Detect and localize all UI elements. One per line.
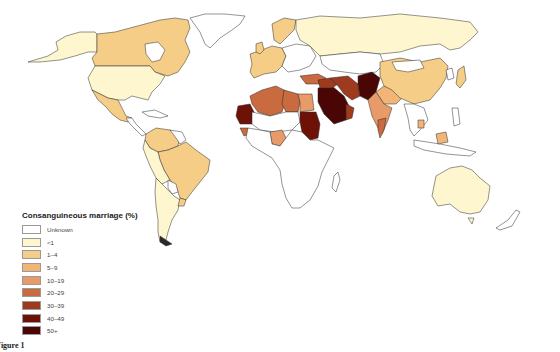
region-central-america — [126, 118, 146, 136]
legend-label: 1–4 — [47, 251, 57, 258]
legend-item: 1–4 — [22, 248, 138, 261]
legend-label: Unknown — [47, 226, 73, 233]
legend-swatch-1-4 — [22, 250, 41, 259]
legend-item: 10–19 — [22, 274, 138, 287]
legend-item: 5–9 — [22, 261, 138, 274]
legend-item: <1 — [22, 236, 138, 249]
legend-item: Unknown — [22, 223, 138, 236]
legend-label: <1 — [47, 239, 54, 246]
legend-item: 20–29 — [22, 286, 138, 299]
region-scandinavia — [272, 18, 296, 44]
region-korea — [446, 68, 454, 80]
figure-caption: Figure 1 — [0, 341, 25, 350]
legend-label: 10–19 — [47, 277, 64, 284]
region-australia — [432, 166, 490, 214]
map-legend: Consanguineous marriage (%) Unknown <1 1… — [22, 211, 138, 337]
legend-label: 30–39 — [47, 302, 64, 309]
region-greenland — [190, 14, 245, 48]
region-cambodia — [418, 120, 424, 128]
region-egypt — [298, 94, 314, 112]
region-alaska — [28, 32, 97, 62]
legend-swatch-20-29 — [22, 288, 41, 297]
legend-swatch-5-9 — [22, 263, 41, 272]
region-japan — [456, 66, 466, 88]
region-libya — [282, 90, 300, 112]
region-philippines — [452, 108, 460, 126]
region-sub-saharan-africa — [246, 128, 334, 208]
region-caribbean — [142, 110, 168, 118]
legend-label: 20–29 — [47, 289, 64, 296]
legend-swatch-unknown — [22, 225, 41, 234]
legend-item: 50+ — [22, 325, 138, 338]
legend-swatch-30-39 — [22, 301, 41, 310]
region-sahel — [252, 112, 300, 132]
region-russia — [296, 14, 478, 56]
region-borneo — [436, 132, 448, 144]
region-yemen-oman — [346, 104, 354, 120]
legend-swatch-50-plus — [22, 326, 41, 335]
legend-label: 5–9 — [47, 264, 57, 271]
region-madagascar — [332, 172, 340, 192]
legend-item: 30–39 — [22, 299, 138, 312]
legend-label: 50+ — [47, 327, 58, 334]
legend-label: 40–49 — [47, 315, 64, 322]
region-tasmania — [468, 218, 474, 224]
region-mauritania — [236, 104, 254, 124]
region-eastern-europe — [282, 44, 316, 72]
legend-swatch-lt1 — [22, 238, 41, 247]
legend-item: 40–49 — [22, 312, 138, 325]
legend-title: Consanguineous marriage (%) — [22, 211, 138, 220]
region-central-asia — [320, 52, 384, 74]
region-new-zealand — [496, 210, 520, 230]
legend-swatch-40-49 — [22, 314, 41, 323]
region-southeast-asia — [404, 104, 428, 136]
region-morocco-algeria — [250, 86, 286, 116]
legend-swatch-10-19 — [22, 276, 41, 285]
region-western-europe — [250, 46, 286, 78]
